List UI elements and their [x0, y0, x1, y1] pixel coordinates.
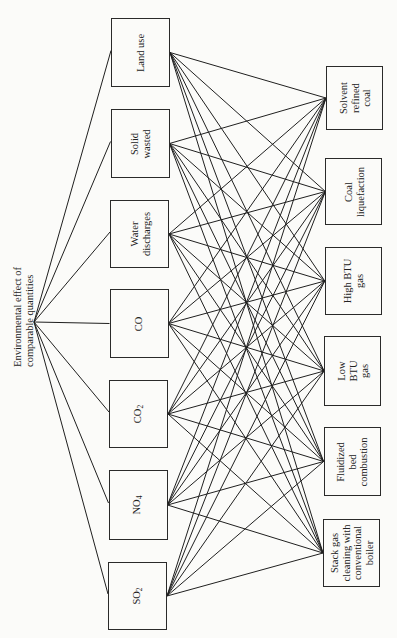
edge-so2-to-low-btu-gas	[167, 371, 324, 596]
edge-land-use-to-high-btu-gas	[170, 53, 325, 282]
root-goal-label: Environmental effect of comparable quant…	[12, 277, 35, 367]
criterion-box-solid-wasted: Solid wasted	[111, 109, 170, 178]
criterion-label-subscript: 4	[135, 496, 144, 500]
criterion-box-so2: SO2	[108, 562, 167, 630]
edge-solid-wasted-to-solvent-refined-coal	[170, 98, 327, 144]
edge-so2-to-stack-gas-cleaning	[167, 553, 323, 596]
edge-land-use-to-solvent-refined-coal	[170, 53, 326, 99]
alternative-label: Fluidized bed combustion	[335, 437, 370, 486]
alternative-box-solvent-refined-coal: Solvent refined coal	[326, 66, 383, 130]
alternative-label: Coal liquefaction	[342, 166, 365, 216]
criterion-box-land-use: Land use	[111, 18, 170, 87]
criterion-label: Solid wasted	[129, 129, 152, 158]
edge-root-to-no4	[34, 322, 109, 503]
alternative-label: Stack gas cleaning with conventional boi…	[329, 525, 375, 582]
alternative-box-stack-gas-cleaning: Stack gas cleaning with conventional boi…	[323, 519, 380, 587]
criterion-box-no4: NO4	[109, 470, 168, 540]
alternative-label: Low BTU gas	[335, 361, 370, 382]
criterion-label: Land use	[135, 33, 147, 71]
edge-solid-wasted-to-coal-liquefaction	[170, 144, 326, 192]
edge-root-to-water-discharges	[34, 232, 110, 322]
criterion-label-subscript: 2	[135, 405, 144, 409]
edge-so2-to-fluidized-bed-combustion	[167, 462, 324, 597]
criterion-label: Water discharges	[128, 212, 151, 256]
edge-so2-to-coal-liquefaction	[167, 192, 325, 597]
edge-no4-to-solvent-refined-coal	[168, 98, 327, 505]
alternative-label: High BTU gas	[342, 259, 365, 304]
criterion-box-co: CO	[110, 289, 169, 358]
criterion-label: NO	[131, 499, 142, 514]
criterion-label-wrap: NO4	[131, 496, 146, 515]
edge-land-use-to-coal-liquefaction	[170, 53, 325, 192]
alternative-label: Solvent refined coal	[337, 82, 372, 114]
edge-water-discharges-to-coal-liquefaction	[169, 192, 325, 235]
criterion-label-wrap: CO2	[131, 405, 146, 423]
alternative-box-fluidized-bed-combustion: Fluidized bed combustion	[324, 427, 381, 496]
edge-root-to-co	[34, 322, 110, 324]
criterion-box-water-discharges: Water discharges	[110, 200, 169, 268]
alternative-box-low-btu-gas: Low BTU gas	[324, 336, 381, 406]
alternative-box-coal-liquefaction: Coal liquefaction	[325, 158, 382, 225]
edge-root-to-solid-wasted	[34, 142, 111, 323]
edge-root-to-so2	[34, 322, 108, 594]
alternative-box-high-btu-gas: High BTU gas	[325, 247, 382, 315]
criterion-label: SO	[130, 591, 141, 604]
criterion-label-wrap: SO2	[130, 587, 145, 604]
criterion-box-co2: CO2	[109, 380, 168, 448]
edge-co2-to-solvent-refined-coal	[168, 98, 326, 414]
criterion-label: CO	[131, 409, 142, 424]
edge-root-to-land-use	[34, 51, 111, 323]
edge-root-to-co2	[34, 322, 109, 412]
criterion-label: CO	[133, 316, 145, 331]
edge-so2-to-high-btu-gas	[167, 281, 325, 596]
criterion-label-subscript: 2	[134, 587, 143, 591]
